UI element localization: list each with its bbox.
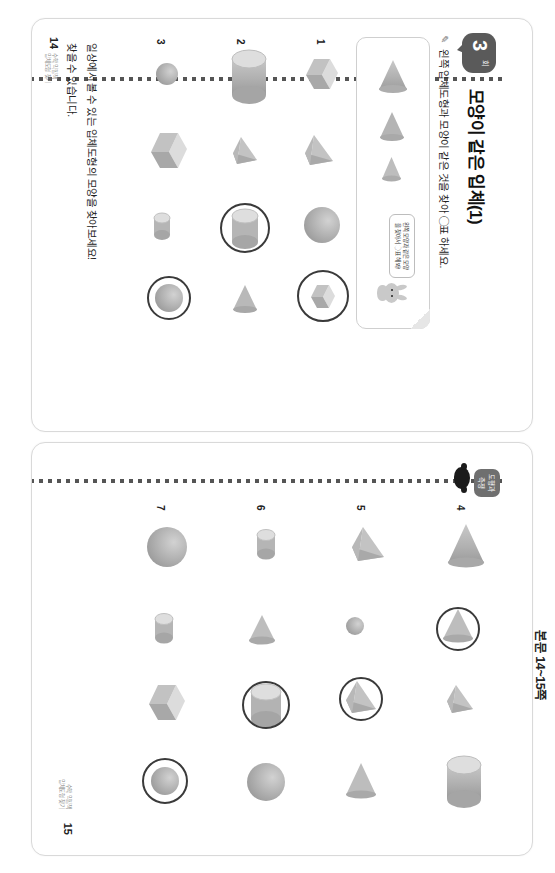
row7-option-1[interactable] [146,611,178,645]
row7-option-3[interactable] [144,763,182,799]
bunny-eye-right [391,295,393,297]
row3-option-3[interactable] [148,281,186,315]
answer-circle-mark [339,677,383,721]
triangular-pyramid-icon [348,523,388,567]
cone-icon [246,611,278,647]
row-number: 2 [235,39,246,45]
screenshot-stage: 3 회 모양이 같은 입체(1) ✎ 왼쪽 입체도형과 모양이 같은 것을 찾아… [0,0,555,873]
row2-prompt-shape [220,47,274,105]
sphere-icon [244,759,288,805]
workbook-spread: 3 회 모양이 같은 입체(1) ✎ 왼쪽 입체도형과 모양이 같은 것을 찾아… [0,0,555,873]
cone-icon [444,519,488,569]
chapter-badge-number: 3 [468,40,492,51]
instruction-text: 왼쪽 입체도형과 모양이 같은 것을 찾아 ◯표 하세요. [437,49,452,268]
sphere-icon [344,615,366,637]
row6-prompt-shape [248,527,280,561]
row7-prompt-shape [140,523,190,571]
example-box-corner [410,309,430,329]
cone-icon [377,108,407,142]
left-footer-small: 수학 익힘책 입체도형 찾기 [44,53,58,83]
row1-prompt-shape [298,53,342,95]
example-shape-2 [373,108,407,142]
example-box: 왼쪽 모양과 같은 모양을 찾아서 ◯표 해 봐! [356,37,430,329]
bunny-eye-left [391,289,393,291]
row-number: 3 [155,39,166,45]
left-page-number: 14 [48,37,60,49]
example-shape-3 [375,154,404,182]
chapter-badge-unit: 회 [481,60,489,66]
right-page-number: 15 [62,823,74,835]
dark-mascot-body [454,467,470,489]
cylinder-icon [224,47,274,105]
row3-option-2[interactable] [146,211,174,241]
bunny-mascot [375,280,405,306]
example-shape-1 [371,54,411,94]
left-footer-line1: 일상에서 볼 수 있는 입체도형의 모양을 찾아보세요! [85,43,100,259]
sphere-icon [144,523,190,571]
row5-prompt-shape [344,523,388,567]
right-footer-small: 수학 익힘책 입체도형 찾기 [58,779,72,809]
header-note: 본문 14~15쪽 [532,630,551,701]
row-number: 5 [355,505,366,511]
row-number: 4 [455,505,466,511]
row3-prompt-shape [150,61,180,87]
row6-option-2[interactable] [240,681,288,729]
cylinder-icon [150,211,174,241]
right-page: 도형과 측정 4 [31,442,533,856]
row5-option-3[interactable] [338,759,380,801]
left-page: 3 회 모양이 같은 입체(1) ✎ 왼쪽 입체도형과 모양이 같은 것을 찾아… [31,18,533,432]
page-title: 모양이 같은 입체(1) [465,89,490,224]
row6-option-1[interactable] [242,611,278,647]
cube-icon [144,679,190,727]
triangular-pyramid-icon [302,131,336,171]
triangular-pyramid-icon [444,681,476,717]
row-number: 1 [315,39,326,45]
cube-icon [146,127,192,175]
row6-option-3[interactable] [240,759,288,805]
row4-option-3[interactable] [436,753,488,811]
row5-option-2[interactable] [338,677,380,719]
side-tab-label: 도형과 측정 [474,469,500,497]
answer-circle-mark [436,607,480,651]
chapter-badge: 3 회 [462,33,496,73]
row4-option-1[interactable] [436,605,476,645]
row1-option-1[interactable] [298,131,336,171]
cone-icon [379,154,404,182]
cube-icon [302,53,342,95]
cylinder-icon [252,527,280,561]
cylinder-icon [150,611,178,645]
left-footer-line2: 찾을 수 있습니다. [65,43,80,117]
row1-option-3[interactable] [302,279,340,313]
cone-icon [230,281,260,315]
row4-option-2[interactable] [440,681,476,717]
sphere-icon [302,205,342,245]
bunny-body [377,285,388,301]
answer-circle-mark [297,270,349,322]
row2-option-2[interactable] [222,207,264,249]
row-number: 7 [155,505,166,511]
sphere-icon [154,61,180,87]
triangular-pyramid-icon [230,133,260,169]
row2-option-1[interactable] [226,133,260,169]
row4-prompt-shape [440,519,488,569]
cone-icon [342,759,380,801]
cylinder-icon [440,753,488,811]
pencil-icon: ✎ [439,35,450,43]
row2-option-3[interactable] [226,281,260,315]
row3-option-1[interactable] [142,127,192,175]
answer-circle-mark [147,276,191,320]
row7-option-2[interactable] [140,679,190,727]
example-bubble: 왼쪽 모양과 같은 모양을 찾아서 ◯표 해 봐! [389,214,415,278]
answer-circle-mark [242,681,290,729]
row1-option-2[interactable] [298,205,342,245]
right-page-fold-line [32,479,502,483]
answer-circle-mark [220,203,270,253]
row5-option-1[interactable] [340,615,366,637]
row-number: 6 [255,505,266,511]
answer-circle-mark [142,758,188,804]
cone-icon [375,54,411,94]
